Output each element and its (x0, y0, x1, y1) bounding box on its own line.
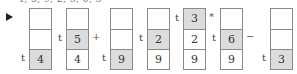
top-pointer-label: t (139, 32, 143, 43)
stack-column: 3 (270, 8, 293, 70)
top-pointer-label: t (102, 52, 106, 63)
stack-column: 4 (29, 8, 52, 70)
triangle-marker-icon (6, 13, 13, 21)
stack-cell: 9 (111, 49, 132, 69)
sequence-caption: 4, 5, 9, 2, 3, 6, 3 (18, 0, 102, 4)
stack-cell: 9 (148, 49, 169, 69)
stack-cell (221, 9, 242, 29)
stack-column: 54 (66, 8, 89, 70)
stack-cell: 4 (30, 49, 51, 69)
stack-column: 69 (220, 8, 243, 70)
top-pointer-label: t (58, 32, 62, 43)
stack-cell (271, 29, 292, 49)
stack-cell (271, 9, 292, 29)
stack-column: 9 (110, 8, 133, 70)
stack-cell (30, 29, 51, 49)
stack-cell (148, 9, 169, 29)
top-pointer-label: t (21, 52, 25, 63)
stack-cell: 3 (184, 9, 205, 29)
stack-cell: 2 (184, 29, 205, 49)
operator-symbol: − (246, 31, 254, 42)
stack-cell (111, 29, 132, 49)
stack-cell (111, 9, 132, 29)
stack-column: 29 (147, 8, 170, 70)
top-pointer-label: t (262, 52, 266, 63)
stack-cell (67, 9, 88, 29)
stack-cell: 3 (271, 49, 292, 69)
operator-symbol: * (209, 11, 214, 22)
top-pointer-label: t (175, 12, 179, 23)
stack-cell: 2 (148, 29, 169, 49)
stack-column: 329 (183, 8, 206, 70)
operator-symbol: + (92, 31, 100, 42)
top-pointer-label: t (212, 32, 216, 43)
stack-cell: 9 (221, 49, 242, 69)
stack-cell (30, 9, 51, 29)
stack-cell: 9 (184, 49, 205, 69)
stack-cell: 5 (67, 29, 88, 49)
stack-cell: 4 (67, 49, 88, 69)
stack-cell: 6 (221, 29, 242, 49)
